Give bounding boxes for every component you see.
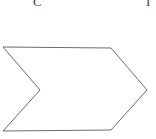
vertex-label-c: C [33, 0, 42, 8]
figure-canvas: C I [0, 0, 156, 139]
chevron-arrow-shape [0, 0, 156, 139]
chevron-arrow-outline [3, 47, 147, 131]
vertex-label-right-clipped: I [146, 0, 150, 8]
